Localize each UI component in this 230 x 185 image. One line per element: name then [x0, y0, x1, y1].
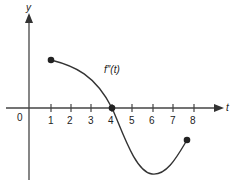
x-tick-label: 8: [190, 115, 196, 126]
y-axis-arrow-icon: [25, 13, 33, 23]
x-tick-label: 6: [149, 115, 155, 126]
x-tick-label: 5: [129, 115, 135, 126]
x-tick-label: 1: [48, 115, 54, 126]
point-marker: [48, 57, 55, 64]
x-axis-label: t: [226, 102, 230, 113]
point-marker: [109, 105, 116, 112]
chart-svg: y t 0 1 2 3 4 5 6 7 8 f″(t): [0, 0, 230, 185]
origin-label: 0: [17, 112, 23, 123]
x-axis-arrow-icon: [214, 104, 224, 112]
y-axis-label: y: [25, 2, 32, 13]
x-tick-label: 3: [88, 115, 94, 126]
point-marker: [184, 137, 191, 144]
x-tick-label: 2: [67, 115, 73, 126]
series-label: f″(t): [104, 64, 120, 75]
x-tick-label: 7: [170, 115, 176, 126]
chart-figure: y t 0 1 2 3 4 5 6 7 8 f″(t): [0, 0, 230, 185]
x-tick-label: 4: [108, 115, 114, 126]
